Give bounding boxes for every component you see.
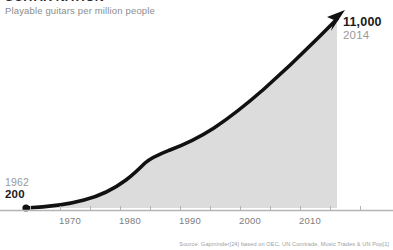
annotation-end-value: 11,000	[343, 15, 382, 29]
annotation-start: 1962 200	[5, 176, 29, 200]
x-axis-label-1970: 1970	[59, 215, 81, 226]
area-fill	[26, 19, 337, 208]
chart-svg	[0, 0, 393, 250]
chart-root: GUITAR NATION Playable guitars per milli…	[0, 0, 393, 250]
source-note: Source: Gapminder[24] based on OEC, UN C…	[179, 241, 389, 247]
annotation-end-year: 2014	[343, 29, 382, 41]
x-axis-label-2010: 2010	[299, 215, 321, 226]
annotation-start-value: 200	[5, 188, 29, 200]
chart-plot-area	[0, 0, 393, 250]
x-axis-label-1990: 1990	[179, 215, 201, 226]
annotation-end: 11,000 2014	[343, 15, 382, 41]
x-axis-label-2000: 2000	[239, 215, 261, 226]
x-axis-label-1980: 1980	[119, 215, 141, 226]
annotation-start-year: 1962	[5, 176, 29, 188]
